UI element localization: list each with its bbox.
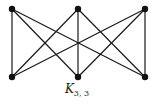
- graph-label: K3, 3: [0, 82, 154, 98]
- node-a3: [142, 6, 148, 12]
- node-a2: [75, 6, 81, 12]
- node-b3: [142, 74, 148, 80]
- node-b2: [75, 74, 81, 80]
- node-b1: [9, 74, 15, 80]
- node-a1: [9, 6, 15, 12]
- graph-name: K: [65, 82, 74, 96]
- graph-subscript: 3, 3: [74, 89, 89, 98]
